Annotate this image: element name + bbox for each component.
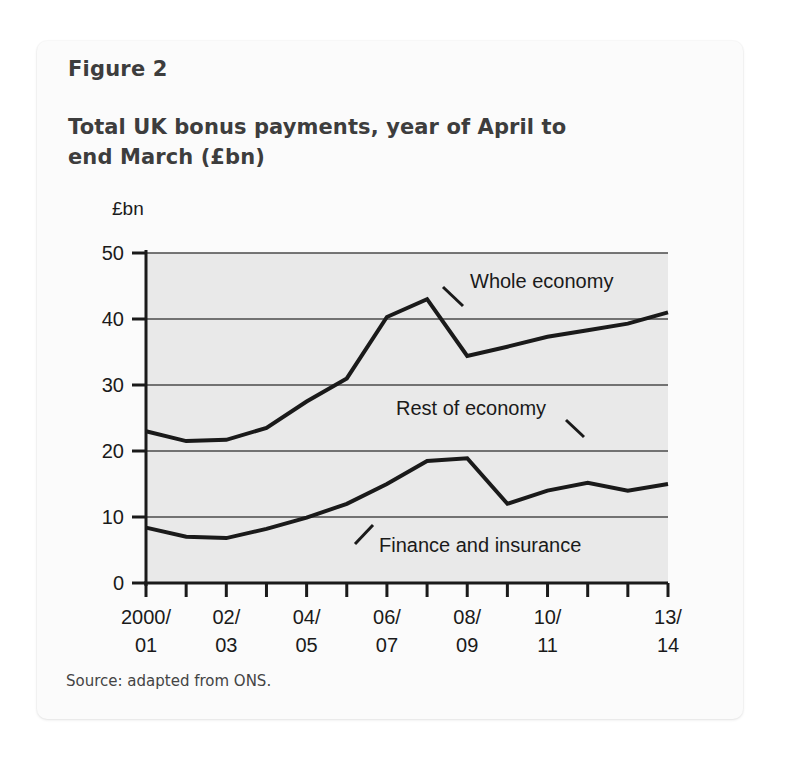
source-note: Source: adapted from ONS. (66, 672, 271, 690)
figure-label: Figure 2 (68, 57, 168, 81)
y-axis-unit-label: £bn (112, 198, 144, 220)
chart-title: Total UK bonus payments, year of April t… (68, 113, 588, 173)
